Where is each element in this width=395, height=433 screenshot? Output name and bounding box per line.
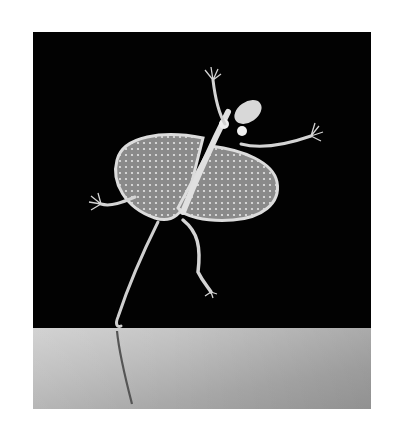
tail-shadow: [117, 331, 132, 404]
head: [230, 95, 266, 129]
flying-lizard-figure: [33, 32, 371, 409]
throat-flap-right: [237, 126, 247, 136]
lizard-photograph: [33, 32, 371, 409]
front-left-leg: [213, 80, 225, 124]
tail: [117, 222, 158, 327]
front-right-leg: [241, 136, 311, 146]
back-right-leg: [183, 220, 211, 292]
